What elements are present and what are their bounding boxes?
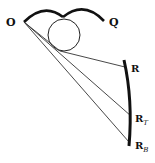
label-O: O [6,16,16,29]
ray-tangent-R [60,51,125,67]
ray-O-RB [24,22,129,142]
label-RT: RT [135,113,149,127]
label-Q: Q [109,16,119,29]
eye-ray-diagram: O Q R RT RB [0,0,155,163]
arc-right [63,9,104,21]
label-RB: RB [135,140,148,154]
retina-arc [124,60,130,146]
label-R: R [131,63,140,74]
lens-circle [48,19,80,51]
ray-O-RT [24,22,131,116]
